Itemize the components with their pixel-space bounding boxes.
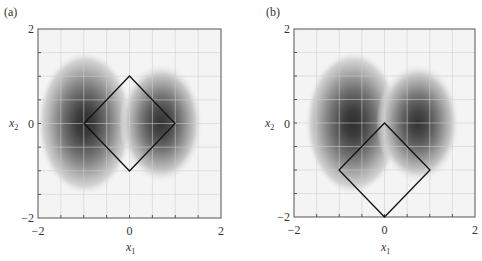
panel-a-xtick-zero: 0 (127, 224, 133, 238)
panel-a-ytick-top: 2 (28, 22, 34, 36)
panel-a-label: (a) (4, 5, 17, 19)
panel-b-ylabel: x2 (264, 116, 274, 132)
panel-b-ytick-zero: 0 (284, 117, 290, 131)
panel-b-ytick-top: 2 (284, 22, 290, 36)
panel-a: (a) 2 0 −2 −2 0 2 x1 x2 (4, 5, 224, 256)
panel-b-label: (b) (266, 5, 280, 19)
figure: (a) 2 0 −2 −2 0 2 x1 x2 (b) 2 0 −2 −2 0 … (0, 0, 482, 261)
panel-a-xtick-left: −2 (32, 224, 45, 238)
panel-a-ytick-bottom: −2 (21, 211, 34, 225)
panel-a-xlabel: x1 (125, 240, 135, 256)
panel-a-ytick-zero: 0 (28, 117, 34, 131)
panel-b-xtick-left: −2 (288, 223, 301, 237)
panel-b-xlabel: x1 (380, 240, 390, 256)
panel-b-ytick-bottom: −2 (277, 210, 290, 224)
panel-b: (b) 2 0 −2 −2 0 2 x1 x2 (264, 5, 478, 256)
panel-b-xtick-right: 2 (472, 223, 478, 237)
panel-a-xtick-right: 2 (218, 224, 224, 238)
panel-a-ylabel: x2 (8, 116, 18, 132)
panel-b-xtick-zero: 0 (382, 223, 388, 237)
